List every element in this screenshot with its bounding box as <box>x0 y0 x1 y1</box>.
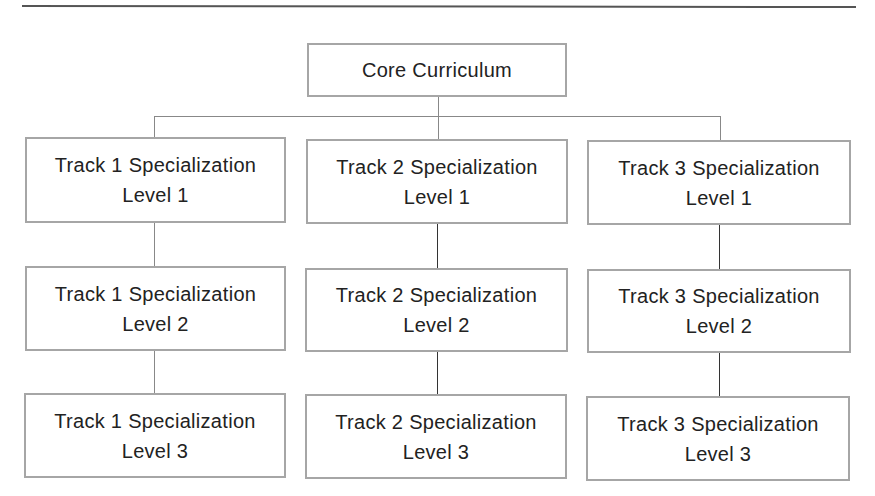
track2-level2-title: Track 2 Specialization <box>336 280 538 310</box>
top-horizontal-rule <box>22 5 856 8</box>
track1-level3-level: Level 3 <box>122 436 189 466</box>
track2-level1-level: Level 1 <box>404 182 471 212</box>
track2-level2-level: Level 2 <box>403 310 470 340</box>
track3-level1-to-level2-connector <box>719 225 720 269</box>
track1-branch-connector <box>154 116 155 137</box>
track1-level1-level: Level 1 <box>122 180 189 210</box>
track2-branch-connector <box>438 116 439 139</box>
track1-level2-level: Level 2 <box>122 309 189 339</box>
track1-level3-title: Track 1 Specialization <box>54 406 256 436</box>
track3-level1-level: Level 1 <box>686 183 753 213</box>
track1-level1-node: Track 1 Specialization Level 1 <box>25 137 286 223</box>
track1-level2-node: Track 1 Specialization Level 2 <box>25 266 286 351</box>
track1-level2-to-level3-connector <box>154 351 155 393</box>
track2-level2-to-level3-connector <box>437 352 438 394</box>
track2-level1-title: Track 2 Specialization <box>336 152 538 182</box>
track3-level2-level: Level 2 <box>686 311 753 341</box>
track2-level3-level: Level 3 <box>403 437 470 467</box>
track3-level3-level: Level 3 <box>685 439 752 469</box>
core-curriculum-node: Core Curriculum <box>307 43 567 97</box>
track3-branch-connector <box>720 116 721 140</box>
track2-level2-node: Track 2 Specialization Level 2 <box>305 268 568 352</box>
track3-level1-node: Track 3 Specialization Level 1 <box>587 140 851 225</box>
track2-level1-node: Track 2 Specialization Level 1 <box>306 139 568 224</box>
track1-level1-to-level2-connector <box>154 223 155 266</box>
root-down-connector <box>438 97 439 117</box>
track1-level3-node: Track 1 Specialization Level 3 <box>24 393 286 478</box>
track3-level2-node: Track 3 Specialization Level 2 <box>587 269 851 353</box>
track2-level3-title: Track 2 Specialization <box>335 407 537 437</box>
track3-level2-to-level3-connector <box>719 353 720 396</box>
track2-level3-node: Track 2 Specialization Level 3 <box>305 394 567 479</box>
core-curriculum-label: Core Curriculum <box>362 55 512 85</box>
track2-level1-to-level2-connector <box>437 224 438 268</box>
track3-level3-node: Track 3 Specialization Level 3 <box>586 396 850 481</box>
track1-level1-title: Track 1 Specialization <box>55 150 257 180</box>
track3-level3-title: Track 3 Specialization <box>617 409 819 439</box>
track1-level2-title: Track 1 Specialization <box>55 279 257 309</box>
track3-level2-title: Track 3 Specialization <box>618 281 820 311</box>
track3-level1-title: Track 3 Specialization <box>618 153 820 183</box>
